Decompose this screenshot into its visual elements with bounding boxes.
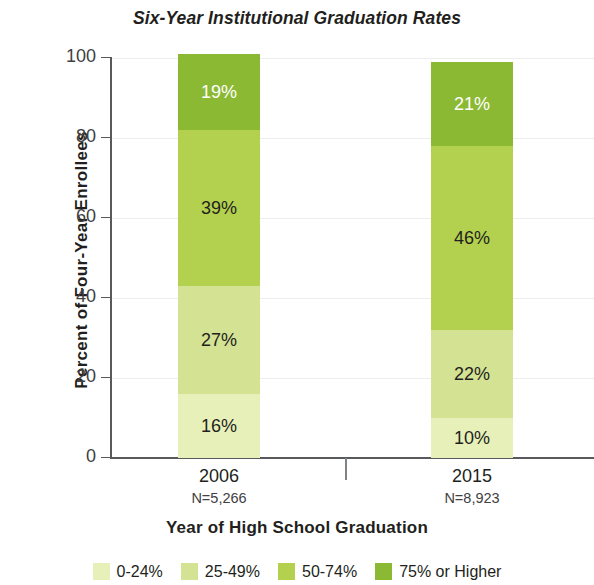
y-axis-tick-label: 60	[38, 206, 96, 227]
chart-legend: 0-24%25-49%50-74%75% or Higher	[0, 558, 594, 585]
y-axis-tick	[101, 57, 110, 59]
x-axis-group-2015: 2015N=8,923	[392, 464, 552, 508]
x-axis-title: Year of High School Graduation	[0, 518, 594, 538]
bar-segment-value-label: 39%	[178, 199, 260, 217]
bar-segment-value-label: 27%	[178, 331, 260, 349]
y-axis-tick	[101, 457, 110, 459]
legend-item-50-74-[interactable]: 50-74%	[278, 563, 357, 581]
bar-segment-value-label: 19%	[178, 83, 260, 101]
legend-swatch-icon	[278, 563, 295, 580]
chart-title: Six-Year Institutional Graduation Rates	[0, 8, 594, 29]
legend-swatch-icon	[375, 563, 392, 580]
chart-figure: Six-Year Institutional Graduation Rates …	[0, 0, 594, 585]
y-axis-tick-label: 100	[38, 46, 96, 67]
legend-item-25-49-[interactable]: 25-49%	[181, 563, 260, 581]
bar-segment-value-label: 10%	[431, 429, 513, 447]
legend-item-0-24-[interactable]: 0-24%	[93, 563, 163, 581]
bar-2015[interactable]: 10%22%46%21%	[431, 58, 513, 458]
legend-swatch-icon	[93, 563, 110, 580]
legend-swatch-icon	[181, 563, 198, 580]
y-axis-tick	[101, 217, 110, 219]
x-axis-category-label: 2006	[139, 464, 299, 488]
x-axis-group-divider	[345, 458, 347, 480]
bar-segment-2015-50-74-[interactable]: 46%	[431, 146, 513, 330]
bar-segment-value-label: 16%	[178, 417, 260, 435]
bar-segment-2015-25-49-[interactable]: 22%	[431, 330, 513, 418]
x-axis-group-2006: 2006N=5,266	[139, 464, 299, 508]
y-axis-line	[110, 57, 112, 458]
y-axis-tick-label: 80	[38, 126, 96, 147]
bar-segment-2006-75-or-higher[interactable]: 19%	[178, 54, 260, 130]
y-axis-tick-label: 40	[38, 286, 96, 307]
y-axis-tick	[101, 297, 110, 299]
legend-item-75-or-higher[interactable]: 75% or Higher	[375, 563, 501, 581]
bar-segment-2006-25-49-[interactable]: 27%	[178, 286, 260, 394]
y-axis-tick-label: 20	[38, 366, 96, 387]
legend-label: 0-24%	[117, 563, 163, 581]
bar-segment-2015-75-or-higher[interactable]: 21%	[431, 62, 513, 146]
bar-segment-2015-0-24-[interactable]: 10%	[431, 418, 513, 458]
legend-label: 50-74%	[302, 563, 357, 581]
bar-2006[interactable]: 16%27%39%19%	[178, 58, 260, 458]
legend-label: 25-49%	[205, 563, 260, 581]
bar-segment-value-label: 21%	[431, 95, 513, 113]
y-axis-tick	[101, 377, 110, 379]
bar-segment-value-label: 22%	[431, 365, 513, 383]
y-axis-tick-label: 0	[38, 446, 96, 467]
y-axis-tick	[101, 137, 110, 139]
x-axis-sample-size-label: N=8,923	[392, 488, 552, 508]
bar-segment-value-label: 46%	[431, 229, 513, 247]
bar-segment-2006-0-24-[interactable]: 16%	[178, 394, 260, 458]
legend-label: 75% or Higher	[399, 563, 501, 581]
x-axis-category-label: 2015	[392, 464, 552, 488]
y-axis-title: Percent of Four-Year Enrollees	[72, 50, 92, 470]
x-axis-sample-size-label: N=5,266	[139, 488, 299, 508]
bar-segment-2006-50-74-[interactable]: 39%	[178, 130, 260, 286]
